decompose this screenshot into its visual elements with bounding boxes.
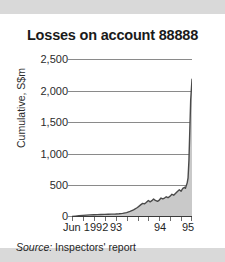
x-tick-label-95: 95: [182, 221, 194, 233]
x-axis-tick-labels: Jun 1992 93 94 95: [0, 221, 225, 235]
source-text: Inspectors' report: [52, 241, 136, 253]
series-area-chart: [72, 59, 192, 217]
x-tick-label-jun-1992: Jun 1992: [63, 221, 108, 233]
chart-title: Losses on account 88888: [0, 27, 225, 43]
plot-area: [72, 59, 192, 217]
chart-card: Losses on account 88888 2,500 2,000 1,50…: [0, 14, 225, 248]
y-axis-title: Cumulative, S$m: [15, 48, 27, 168]
series-fill-path: [72, 79, 192, 217]
source-note: Source: Inspectors' report: [16, 241, 136, 253]
chart-figure: Losses on account 88888 2,500 2,000 1,50…: [0, 0, 225, 262]
top-decorative-band: [0, 0, 225, 14]
y-axis-tick-marks: [0, 59, 72, 217]
x-tick-label-94: 94: [154, 221, 166, 233]
x-tick-label-93: 93: [110, 221, 122, 233]
source-label: Source:: [16, 241, 52, 253]
